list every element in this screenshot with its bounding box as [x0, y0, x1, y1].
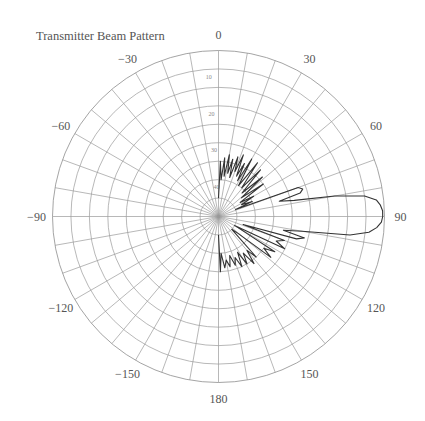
angle-tick-label: 60 — [370, 119, 382, 133]
angle-tick-label: 0 — [216, 28, 222, 42]
angle-tick-label: −90 — [27, 210, 46, 224]
polar-chart: Transmitter Beam Pattern 10203040 030609… — [0, 0, 425, 421]
chart-title: Transmitter Beam Pattern — [36, 29, 165, 43]
angle-tick-label: 150 — [301, 367, 319, 381]
angle-tick-label: 180 — [210, 392, 228, 406]
angle-tick-label: 90 — [395, 210, 407, 224]
radial-tick-label: 30 — [211, 147, 217, 153]
beam-pattern-line — [219, 155, 383, 272]
radial-tick-label: 20 — [208, 111, 214, 117]
angle-tick-label: 120 — [367, 301, 385, 315]
angle-tick-label: −120 — [49, 301, 74, 315]
polar-grid — [53, 51, 385, 383]
angle-tick-label: −30 — [118, 52, 137, 66]
angle-tick-label: 30 — [304, 52, 316, 66]
radial-tick-labels: 10203040 — [206, 74, 220, 190]
angle-tick-label: −150 — [115, 367, 140, 381]
radial-tick-label: 10 — [206, 74, 212, 80]
angle-tick-label: −60 — [52, 119, 71, 133]
